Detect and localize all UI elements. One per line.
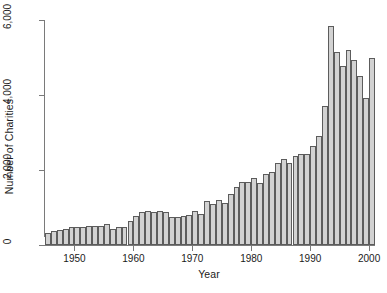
x-axis-line xyxy=(44,245,375,246)
y-tick-label-6000: 6,000 xyxy=(2,0,13,47)
y-tick-4000 xyxy=(39,95,44,96)
y-tick-label-0: 0 xyxy=(2,212,13,272)
x-tick-label-1950: 1950 xyxy=(54,253,94,264)
x-axis-label: Year xyxy=(44,268,374,280)
x-tick-1950 xyxy=(74,246,75,251)
x-tick-label-2000: 2000 xyxy=(349,253,387,264)
x-tick-2000 xyxy=(369,246,370,251)
x-tick-1960 xyxy=(133,246,134,251)
x-tick-1990 xyxy=(310,246,311,251)
bar-series-charities xyxy=(45,20,375,245)
y-tick-6000 xyxy=(39,20,44,21)
y-tick-label-2000: 2,000 xyxy=(2,137,13,197)
x-tick-label-1960: 1960 xyxy=(113,253,153,264)
y-tick-label-4000: 4,000 xyxy=(2,62,13,122)
x-tick-label-1970: 1970 xyxy=(172,253,212,264)
y-tick-0 xyxy=(39,245,44,246)
x-tick-label-1980: 1980 xyxy=(231,253,271,264)
chart-figure: Number of Charities Year 02,0004,0006,00… xyxy=(0,0,387,293)
bar-2000 xyxy=(369,58,375,246)
x-tick-1970 xyxy=(192,246,193,251)
x-tick-1980 xyxy=(251,246,252,251)
x-tick-label-1990: 1990 xyxy=(290,253,330,264)
y-tick-2000 xyxy=(39,170,44,171)
